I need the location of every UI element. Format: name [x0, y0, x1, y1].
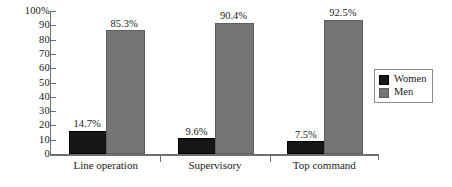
- legend-item-women: Women: [379, 73, 426, 86]
- bar-value-label: 85.3%: [98, 19, 151, 30]
- legend-label-women: Women: [394, 74, 426, 85]
- y-axis-tick-label: 100%: [6, 6, 50, 17]
- bar-group: 9.6%90.4%: [160, 11, 269, 154]
- bar-value-label: 92.5%: [316, 8, 369, 19]
- bar-women: [287, 141, 326, 154]
- y-axis-tick-label: 20: [6, 120, 50, 131]
- bar-women: [69, 131, 108, 154]
- category-label: Line operation: [51, 160, 160, 171]
- legend-item-men: Men: [379, 86, 426, 99]
- y-axis-tick-label: 40: [6, 92, 50, 103]
- y-axis-tick-label: 0: [6, 149, 50, 160]
- legend-label-men: Men: [394, 87, 413, 98]
- bar-women: [178, 138, 217, 154]
- y-axis-tick-label: 70: [6, 49, 50, 60]
- category-label: Supervisory: [160, 160, 269, 171]
- bar-men: [324, 20, 363, 154]
- y-axis-tick-label: 50: [6, 78, 50, 89]
- bar-group: 14.7%85.3%: [51, 11, 160, 154]
- bar-chart: 100%9080706050403020100 14.7%85.3%9.6%90…: [0, 0, 452, 187]
- y-axis-tick-label: 90: [6, 20, 50, 31]
- y-axis-tick-label: 10: [6, 135, 50, 146]
- bar-men: [106, 30, 145, 154]
- y-axis-tick-label: 30: [6, 106, 50, 117]
- legend: Women Men: [374, 69, 433, 103]
- legend-swatch-men-icon: [379, 88, 389, 98]
- bar-men: [215, 23, 254, 154]
- bar-group: 7.5%92.5%: [270, 11, 379, 154]
- y-axis-tick-label: 80: [6, 35, 50, 46]
- plot-area: 14.7%85.3%9.6%90.4%7.5%92.5%: [51, 11, 379, 154]
- bar-value-label: 90.4%: [207, 11, 260, 22]
- legend-swatch-women-icon: [379, 75, 389, 85]
- category-label: Top command: [270, 160, 379, 171]
- y-axis-tick-label: 60: [6, 63, 50, 74]
- x-axis-line: [50, 154, 379, 156]
